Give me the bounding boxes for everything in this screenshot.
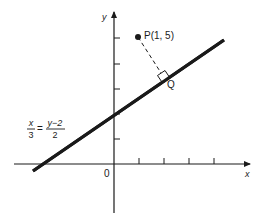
origin-label: 0	[104, 168, 110, 179]
point-p	[135, 34, 141, 40]
y-axis-ticks	[114, 38, 120, 139]
equation-rhs-numerator: y−2	[47, 118, 63, 128]
line-graph-overlay	[33, 40, 224, 171]
diagram-canvas: P(1, 5) Q y x 0 x 3 = y−2 2	[0, 0, 265, 222]
point-p-label: P(1, 5)	[144, 30, 174, 41]
equation-rhs-denominator: 2	[52, 130, 57, 140]
equation-lhs-denominator: 3	[28, 130, 33, 140]
x-axis-label: x	[244, 169, 250, 179]
diagram-figure: P(1, 5) Q y x 0 x 3 = y−2 2	[0, 0, 265, 222]
equation-equals: =	[37, 123, 43, 134]
line-equation: x 3 = y−2 2	[27, 118, 65, 140]
point-q-label: Q	[167, 79, 175, 90]
perpendicular-segment	[138, 37, 163, 76]
y-axis-label: y	[101, 12, 107, 22]
x-axis-ticks	[139, 158, 214, 164]
equation-lhs-numerator: x	[28, 118, 34, 128]
